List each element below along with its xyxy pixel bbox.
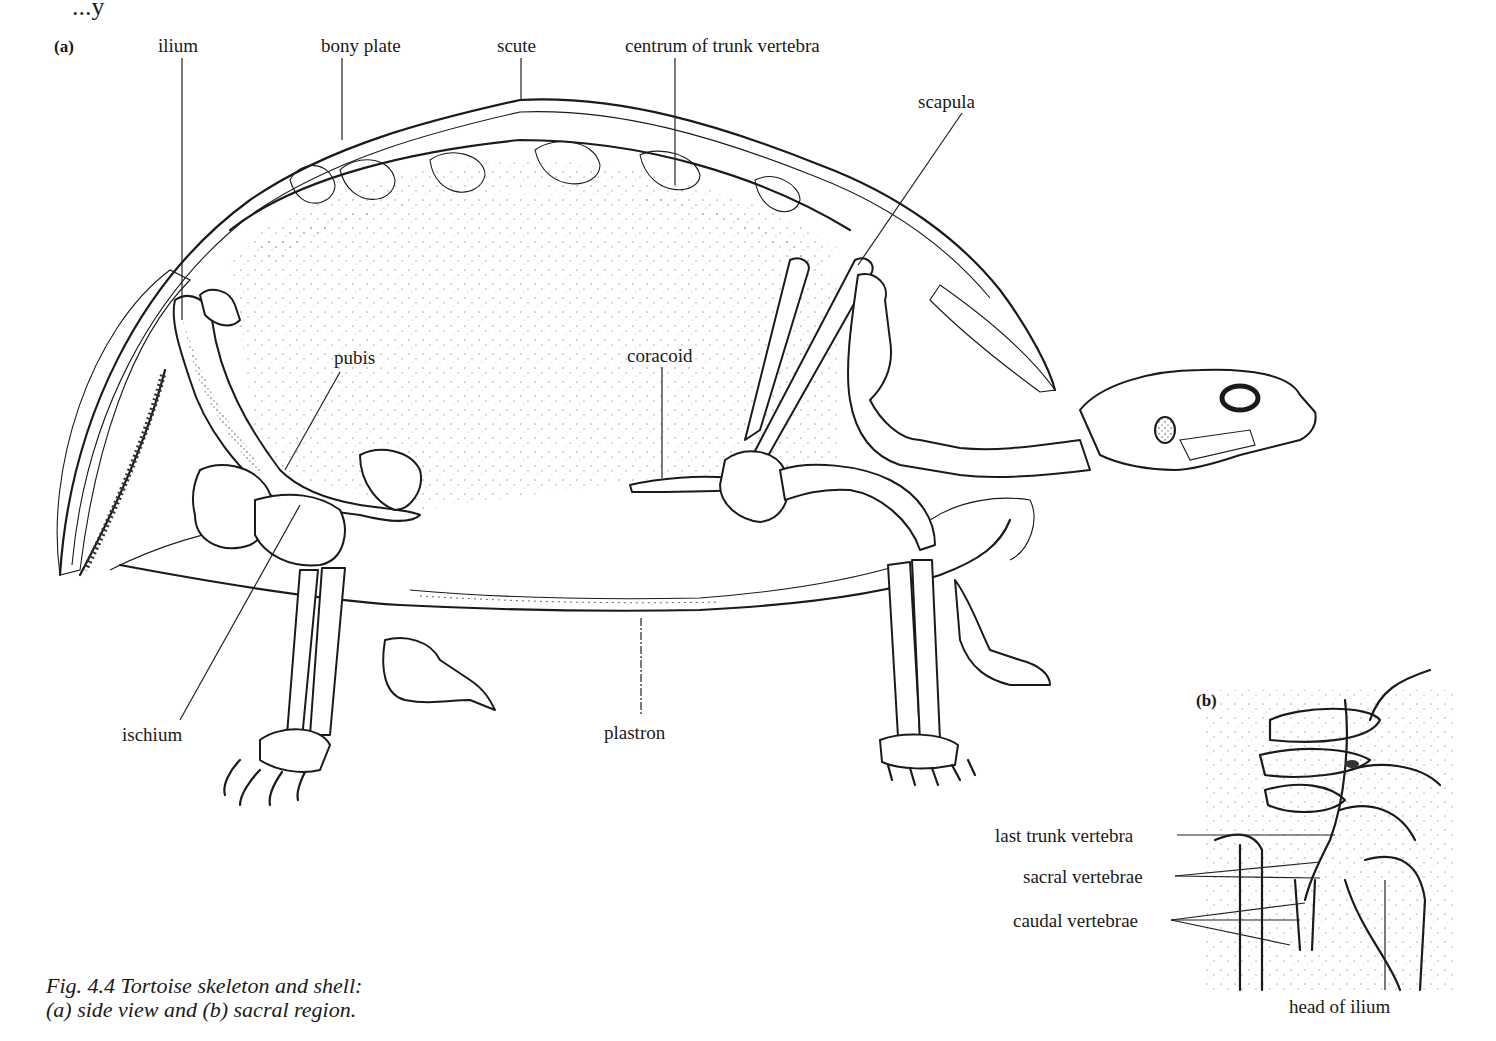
label-scute: scute	[497, 36, 536, 55]
panel-b-tag: (b)	[1196, 692, 1217, 709]
sacral-region-drawing	[1171, 670, 1455, 990]
neck-and-skull	[848, 274, 1316, 477]
label-head-of-ilium: head of ilium	[1289, 997, 1390, 1016]
label-bony-plate: bony plate	[321, 36, 401, 55]
label-caudal-vertebrae: caudal vertebrae	[1013, 911, 1138, 930]
tortoise-skeleton-drawing	[0, 0, 1496, 1041]
panel-a-tag: (a)	[54, 38, 74, 55]
front-leg	[880, 560, 1050, 785]
label-coracoid: coracoid	[627, 346, 692, 365]
label-pubis: pubis	[334, 348, 375, 367]
label-scapula: scapula	[918, 92, 975, 111]
label-centrum-of-trunk-vertebra: centrum of trunk vertebra	[625, 36, 820, 55]
label-ischium: ischium	[122, 725, 182, 744]
page-header-fragment: ...y	[72, 0, 105, 20]
label-sacral-vertebrae: sacral vertebrae	[1023, 867, 1143, 886]
label-plastron: plastron	[604, 723, 665, 742]
caption-line-1: Fig. 4.4 Tortoise skeleton and shell:	[46, 974, 362, 998]
label-ilium: ilium	[158, 36, 198, 55]
hind-leg	[224, 568, 495, 805]
caption-line-2: (a) side view and (b) sacral region.	[46, 998, 362, 1022]
label-last-trunk-vertebra: last trunk vertebra	[995, 826, 1133, 845]
figure-caption: Fig. 4.4 Tortoise skeleton and shell: (a…	[46, 974, 362, 1022]
